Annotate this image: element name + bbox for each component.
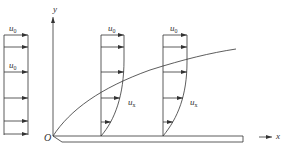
y-axis-label: y <box>53 5 57 14</box>
free-stream-label-top: u0 <box>9 24 17 34</box>
boundary-layer-diagram <box>0 0 288 144</box>
free-stream-profile <box>4 35 28 135</box>
origin-label: O <box>44 133 51 143</box>
free-stream-label-mid: u0 <box>9 61 17 71</box>
profile-2-local-velocity-label: ux <box>190 98 198 108</box>
flat-plate <box>53 136 243 142</box>
velocity-profile-1 <box>101 35 124 136</box>
profile-1-local-velocity-label: ux <box>128 98 136 108</box>
x-axis-label: x <box>276 132 280 141</box>
velocity-profile-2 <box>163 35 187 136</box>
profile-1-free-stream-label: u0 <box>108 24 116 34</box>
profile-2-free-stream-label: u0 <box>170 24 178 34</box>
boundary-layer-edge <box>53 49 236 136</box>
